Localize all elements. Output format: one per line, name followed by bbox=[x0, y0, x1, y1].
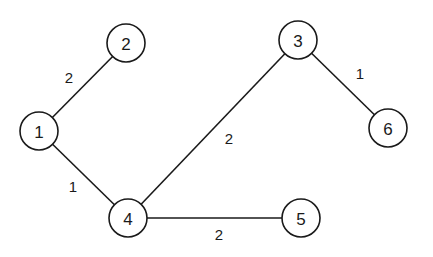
node-label: 2 bbox=[121, 35, 130, 54]
node-label: 1 bbox=[34, 123, 43, 142]
weight-3-6: 1 bbox=[356, 65, 364, 82]
node-label: 3 bbox=[293, 32, 302, 51]
node-5: 5 bbox=[282, 199, 320, 237]
node-label: 6 bbox=[383, 120, 392, 139]
node-label: 5 bbox=[296, 210, 305, 229]
weight-4-5: 2 bbox=[215, 226, 223, 243]
weight-1-2: 2 bbox=[65, 69, 73, 86]
node-3: 3 bbox=[279, 21, 317, 59]
weighted-graph: 2 1 2 1 2 1 2 3 4 5 6 bbox=[0, 0, 433, 257]
weight-4-3: 2 bbox=[225, 130, 233, 147]
node-6: 6 bbox=[369, 109, 407, 147]
node-2: 2 bbox=[107, 24, 145, 62]
edges bbox=[39, 40, 388, 218]
edge-4-3 bbox=[128, 40, 298, 218]
node-label: 4 bbox=[123, 210, 132, 229]
node-4: 4 bbox=[109, 199, 147, 237]
weight-1-4: 1 bbox=[69, 178, 77, 195]
node-1: 1 bbox=[20, 112, 58, 150]
